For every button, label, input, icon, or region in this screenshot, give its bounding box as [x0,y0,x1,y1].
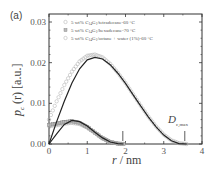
y-tick-label: 0.00 [30,139,46,149]
legend-item-label: 5 wt% C14G1/hexadecane-70 °C [71,28,136,34]
legend-item-label: 5 wt% C14G1/tetradecane-60 °C [71,20,135,26]
legend-marker-circle-icon [64,36,67,39]
y-tick-label: 0.01 [30,98,46,108]
x-axis-label: r / nm [112,153,142,167]
dmax-annotation: Dc,max [167,113,189,128]
dmax-markers [123,131,185,141]
plot-series [47,53,188,146]
x-tick-label: 0 [47,146,52,156]
legend-marker-square-icon [64,29,67,32]
legend: 5 wt% C14G1/tetradecane-60 °C5 wt% C14G1… [64,20,154,42]
legend-marker-circle-icon [64,20,67,23]
chart: (a) 0.000.010.020.03 01234 Dc,max pc (r)… [0,0,213,178]
x-tick-label: 4 [200,146,205,156]
panel-label: (a) [10,10,22,21]
x-tick-label: 3 [162,146,167,156]
legend-item-label: 5 wt% C14G1/octane + water (1%)-60 °C [71,36,153,42]
y-tick-label: 0.02 [30,58,46,68]
svg-text:pc (r) [a.u.]: pc (r) [a.u.] [10,64,26,117]
data-series-1 [47,53,188,146]
y-axis-label: pc (r) [a.u.] [10,64,26,117]
y-tick-label: 0.03 [30,17,46,27]
x-tick-label: 1 [85,146,90,156]
